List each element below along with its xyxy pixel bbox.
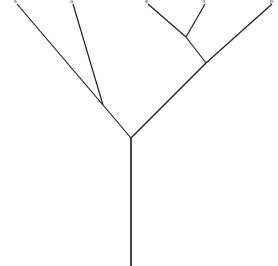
tip-e-label: e [145, 0, 148, 5]
phylogenetic-tree-figure: saefp [0, 0, 278, 266]
tip-f-label: f [203, 0, 205, 5]
branch-root-right [131, 63, 206, 138]
branch-left-a [73, 4, 103, 105]
branch-left-s [17, 4, 103, 105]
branch-right-inner [186, 37, 206, 63]
tip-p-label: p [270, 0, 274, 5]
tip-s-label: s [14, 0, 17, 5]
tree-canvas [0, 0, 278, 266]
tip-a-label: a [70, 0, 73, 5]
branch-inner-e [148, 4, 186, 37]
branch-right-p [206, 4, 272, 63]
branch-root-left [103, 105, 131, 138]
branch-layer [17, 4, 272, 266]
branch-inner-f [186, 4, 205, 37]
